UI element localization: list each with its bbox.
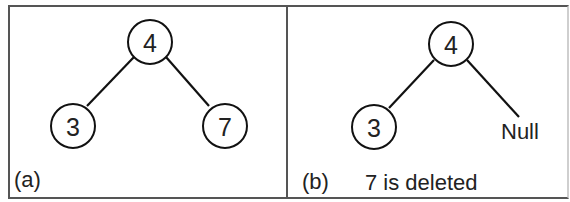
panel-b-node-left: 3	[352, 105, 396, 149]
panel-b-caption: 7 is deleted	[365, 172, 478, 194]
panel-a-node-root: 4	[128, 20, 172, 64]
edge-4-to-7	[166, 57, 209, 106]
edge-4-to-null	[467, 60, 519, 117]
node-value: 4	[444, 31, 458, 59]
node-value: 3	[66, 113, 80, 141]
panel-a-node-right: 7	[203, 104, 247, 148]
null-child-label: Null	[501, 121, 539, 143]
panel-b-label: (b)	[302, 171, 329, 193]
node-value: 7	[218, 113, 232, 141]
edge-4-to-3	[389, 60, 434, 108]
edge-4-to-3	[87, 57, 134, 106]
node-value: 4	[143, 29, 157, 57]
tree-diagrams: 4 3 7 4 3	[0, 0, 570, 202]
node-value: 3	[367, 114, 381, 142]
panel-a-node-left: 3	[51, 104, 95, 148]
panel-b-node-root: 4	[429, 22, 473, 66]
panel-a-label: (a)	[14, 169, 41, 191]
panel-b-edges	[389, 60, 519, 117]
